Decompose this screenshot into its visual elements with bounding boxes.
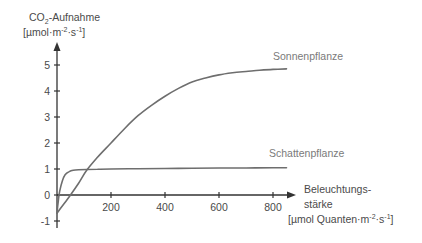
x-tick-label: 800	[258, 202, 288, 213]
y-tick-label: -1	[30, 216, 50, 227]
x-axis-unit-label: [µmol Quanten·m-2·s-1]	[288, 214, 393, 225]
x-unit-part: [µmol Quanten·m	[288, 213, 369, 225]
y-axis-label-co: CO	[29, 11, 45, 23]
x-axis-label-line1: Beleuchtungs-	[304, 184, 371, 195]
series-label-schattenpflanze: Schattenpflanze	[269, 148, 344, 159]
x-tick-label: 600	[204, 202, 234, 213]
y-tick-label: 4	[30, 86, 50, 97]
y-tick-label: 5	[30, 60, 50, 71]
y-unit-part: ·s	[67, 26, 76, 38]
series-line-sonnenpflanze	[57, 69, 287, 213]
y-unit-part: ]	[82, 26, 85, 38]
y-axis-label-suffix: -Aufnahme	[49, 11, 100, 23]
y-axis-unit-label: [µmol·m-2·s-1]	[23, 27, 85, 38]
x-tick-label: 200	[96, 202, 126, 213]
y-axis-label: CO2-Aufnahme	[29, 12, 100, 23]
y-tick-label: 0	[30, 190, 50, 201]
series-label-sonnenpflanze: Sonnenpflanze	[273, 51, 343, 62]
y-unit-part: [µmol·m	[23, 26, 61, 38]
x-unit-part: ]	[391, 213, 394, 225]
y-tick-label: 1	[30, 164, 50, 175]
y-axis-arrow-icon	[54, 42, 61, 51]
y-tick-label: 2	[30, 138, 50, 149]
x-axis-arrow-icon	[287, 192, 296, 199]
series-lines	[57, 69, 287, 213]
x-tick-label: 400	[150, 202, 180, 213]
y-tick-label: 3	[30, 112, 50, 123]
x-axis-label-line2: stärke	[304, 199, 333, 210]
